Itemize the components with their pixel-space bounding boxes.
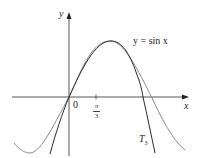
- tick-label-pi-over-3: π 3: [93, 103, 100, 120]
- t3-curve-label: T3: [139, 134, 148, 146]
- origin-label: 0: [73, 100, 78, 110]
- tick-denominator: 3: [95, 112, 99, 120]
- y-axis-arrow-icon: [67, 12, 72, 19]
- plot-svg: [0, 0, 201, 158]
- x-axis-arrow-icon: [182, 95, 189, 100]
- sin-label-text: y = sin x: [133, 35, 168, 46]
- sin-curve-label: y = sin x: [133, 36, 168, 46]
- x-axis-label: x: [184, 101, 188, 111]
- t3-label-sub: 3: [145, 140, 148, 146]
- y-axis-label: y: [59, 9, 63, 19]
- taylor-polynomial-diagram: y x 0 π 3 y = sin x T3: [0, 0, 201, 158]
- tick-numerator: π: [95, 102, 99, 110]
